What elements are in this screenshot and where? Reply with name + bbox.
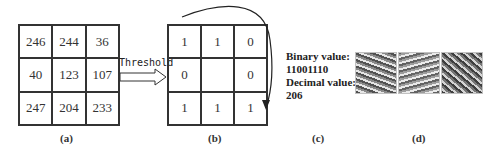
grid-cell: 123 xyxy=(52,58,85,91)
grid-cell: 204 xyxy=(52,92,85,125)
caption-c: (c) xyxy=(312,132,324,144)
decimal-label: Decimal value: xyxy=(286,76,356,89)
reading-order-arrow-icon xyxy=(170,0,290,120)
grid-cell: 247 xyxy=(19,92,52,125)
threshold-label: Threshold xyxy=(119,57,173,68)
binary-value: 11001110 xyxy=(286,63,356,76)
grid-cell: 246 xyxy=(19,25,52,58)
face-lbp-image-2 xyxy=(398,52,440,94)
binary-label: Binary value: xyxy=(286,50,356,63)
binary-result: Binary value: 11001110 Decimal value: 20… xyxy=(286,50,356,102)
face-lbp-image-1 xyxy=(355,52,397,94)
decimal-value: 206 xyxy=(286,89,356,102)
face-lbp-image-3 xyxy=(441,52,483,94)
grid-cell: 40 xyxy=(19,58,52,91)
grid-cell: 107 xyxy=(86,58,119,91)
caption-a: (a) xyxy=(60,132,73,144)
grid-cell: 244 xyxy=(52,25,85,58)
caption-b: (b) xyxy=(208,132,221,144)
pixel-grid: 246 244 36 40 123 107 247 204 233 xyxy=(18,24,120,126)
grid-cell: 36 xyxy=(86,25,119,58)
grid-cell: 233 xyxy=(86,92,119,125)
caption-d: (d) xyxy=(412,132,425,144)
threshold-arrow-icon xyxy=(119,68,169,86)
